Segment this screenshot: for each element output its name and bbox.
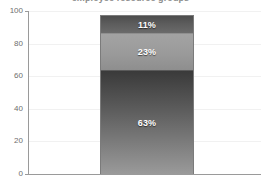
gridline-100 bbox=[28, 11, 261, 12]
y-axis-label-40: 40 bbox=[1, 105, 23, 113]
y-axis-label-60: 60 bbox=[1, 72, 23, 80]
stacked-bar: 11% 23% 63% bbox=[100, 15, 194, 174]
y-axis-label-20: 20 bbox=[1, 137, 23, 145]
bar-segment-top: 11% bbox=[101, 16, 193, 34]
bar-segment-bottom: 63% bbox=[101, 71, 193, 174]
chart-title: employee resource groups bbox=[0, 0, 261, 3]
bar-segment-middle-label: 23% bbox=[138, 47, 157, 57]
y-axis-line bbox=[28, 11, 29, 175]
stacked-bar-chart: employee resource groups 100 80 60 40 20… bbox=[0, 0, 261, 176]
bar-segment-top-label: 11% bbox=[138, 20, 156, 30]
y-axis-label-0: 0 bbox=[1, 170, 23, 176]
y-axis-label-80: 80 bbox=[1, 40, 23, 48]
y-tick-mark-0 bbox=[25, 174, 28, 175]
x-axis-line bbox=[28, 174, 261, 175]
bar-segment-middle: 23% bbox=[101, 34, 193, 71]
y-tick-mark-100 bbox=[25, 11, 28, 12]
y-axis-labels: 100 80 60 40 20 0 bbox=[0, 0, 23, 176]
y-axis-label-100: 100 bbox=[1, 7, 23, 15]
bar-segment-bottom-label: 63% bbox=[138, 118, 157, 128]
